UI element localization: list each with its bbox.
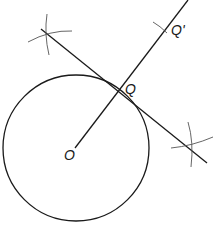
tangent-line — [41, 29, 207, 163]
label-center-o: O — [64, 147, 75, 163]
construction-arcs-bottom-right — [171, 122, 213, 167]
construction-arc-q-prime — [153, 22, 167, 33]
geometry-diagram: O Q Q' — [0, 0, 213, 225]
label-point-q: Q — [125, 81, 136, 97]
label-point-q-prime: Q' — [171, 22, 186, 38]
